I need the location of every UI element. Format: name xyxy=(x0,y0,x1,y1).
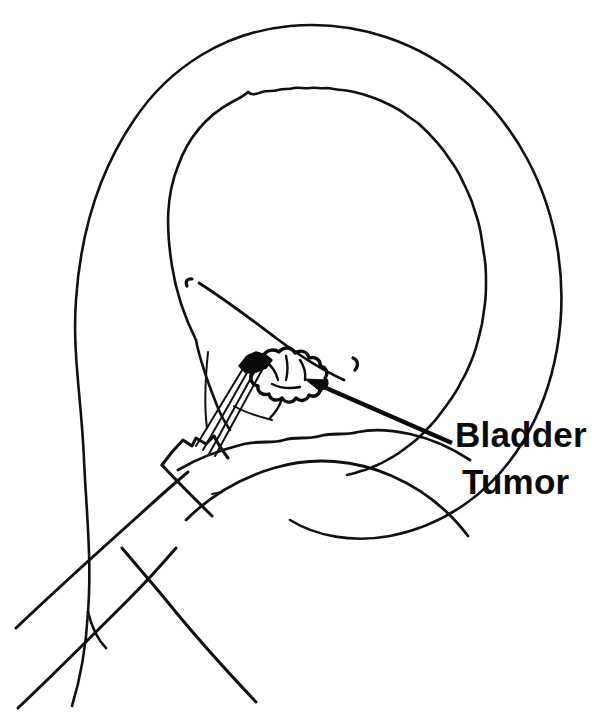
loop-wire-2 xyxy=(203,364,252,450)
bladder-inner-mucosa xyxy=(168,88,486,475)
callout-label-line1: Bladder xyxy=(455,415,587,454)
bladder-tumor xyxy=(251,348,327,402)
tumor-lobule-crease-4 xyxy=(272,384,300,388)
resectoscope-shaft-mid xyxy=(16,472,188,628)
tumor-lobule-crease-1 xyxy=(266,362,278,380)
scope-beak-tip xyxy=(162,436,214,465)
tumor-base-fold xyxy=(234,406,272,420)
tumor-lobule-crease-2 xyxy=(286,356,288,380)
ureteral-orifice-left-icon xyxy=(186,279,192,286)
ureteral-orifice-right-icon xyxy=(353,358,357,370)
bladder-tumor-figure: Bladder Tumor xyxy=(0,0,603,715)
tumor-lobule-crease-3 xyxy=(300,360,305,380)
left-mucosal-fold xyxy=(205,352,208,428)
resectoscope-sheath-lower xyxy=(18,548,176,708)
callout-label-line2: Tumor xyxy=(462,462,569,501)
bladder-outer-wall xyxy=(75,25,561,612)
illustration-canvas: Bladder Tumor xyxy=(0,0,603,715)
resectoscope-sheath-upper xyxy=(122,548,256,702)
bladder-outer-wall-lower-left xyxy=(72,612,88,706)
